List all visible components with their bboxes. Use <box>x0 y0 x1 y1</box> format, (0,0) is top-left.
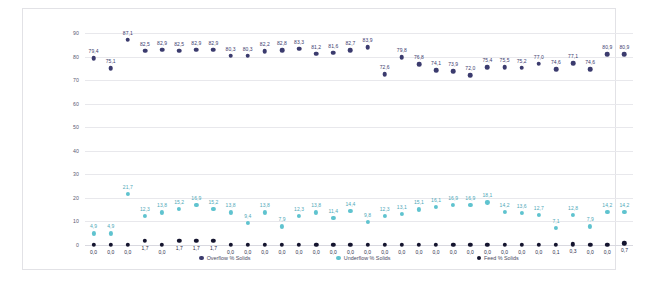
data-point[interactable] <box>468 203 472 207</box>
data-point[interactable] <box>263 49 268 54</box>
legend-item[interactable]: Underflow % Solids <box>336 255 390 261</box>
data-point[interactable] <box>91 56 96 61</box>
data-point[interactable] <box>605 243 609 247</box>
data-point[interactable] <box>588 243 592 247</box>
data-point[interactable] <box>194 239 198 243</box>
data-point[interactable] <box>126 192 130 196</box>
data-point[interactable] <box>468 73 473 78</box>
data-point-label: 83,3 <box>294 39 304 45</box>
data-point[interactable] <box>519 66 524 71</box>
legend-item[interactable]: Feed % Solids <box>477 255 519 261</box>
data-point[interactable] <box>228 243 232 247</box>
data-point[interactable] <box>571 61 576 66</box>
data-point[interactable] <box>571 213 575 217</box>
data-point[interactable] <box>400 212 404 216</box>
data-point[interactable] <box>331 50 336 55</box>
data-point[interactable] <box>434 205 438 209</box>
data-point[interactable] <box>211 47 216 52</box>
data-point[interactable] <box>588 224 592 228</box>
data-point[interactable] <box>451 69 456 74</box>
data-point[interactable] <box>246 221 250 225</box>
data-point[interactable] <box>519 243 523 247</box>
data-point[interactable] <box>228 54 233 59</box>
data-point[interactable] <box>108 66 113 71</box>
data-point[interactable] <box>297 214 301 218</box>
data-point[interactable] <box>314 210 318 214</box>
data-point[interactable] <box>588 67 593 72</box>
data-point[interactable] <box>400 55 405 60</box>
data-point[interactable] <box>109 231 113 235</box>
data-point[interactable] <box>177 207 181 211</box>
data-point[interactable] <box>211 207 215 211</box>
data-point[interactable] <box>605 52 610 57</box>
data-point[interactable] <box>160 47 165 52</box>
data-point[interactable] <box>382 243 386 247</box>
data-point[interactable] <box>434 243 438 247</box>
data-point[interactable] <box>245 243 249 247</box>
data-point[interactable] <box>417 62 422 67</box>
data-point[interactable] <box>348 243 352 247</box>
data-point[interactable] <box>537 243 541 247</box>
data-point[interactable] <box>263 243 267 247</box>
data-point[interactable] <box>468 243 472 247</box>
data-point[interactable] <box>365 45 370 50</box>
data-point[interactable] <box>177 239 181 243</box>
data-point[interactable] <box>417 243 421 247</box>
data-point[interactable] <box>245 54 250 59</box>
data-point[interactable] <box>502 243 506 247</box>
data-point[interactable] <box>383 214 387 218</box>
data-point[interactable] <box>605 209 609 213</box>
data-point[interactable] <box>485 243 489 247</box>
data-point[interactable] <box>280 243 284 247</box>
data-point[interactable] <box>622 52 627 57</box>
data-point-label: 12,3 <box>140 206 150 212</box>
data-point[interactable] <box>263 210 267 214</box>
data-point[interactable] <box>520 211 524 215</box>
data-point[interactable] <box>314 51 319 56</box>
data-point[interactable] <box>502 65 507 70</box>
data-point[interactable] <box>297 243 301 247</box>
data-point[interactable] <box>280 48 285 53</box>
data-point[interactable] <box>485 200 489 204</box>
data-point[interactable] <box>485 65 490 70</box>
data-point[interactable] <box>451 203 455 207</box>
data-point[interactable] <box>297 46 302 51</box>
data-point[interactable] <box>143 214 147 218</box>
data-point[interactable] <box>143 239 147 243</box>
data-point[interactable] <box>365 220 369 224</box>
data-point[interactable] <box>554 243 558 247</box>
data-point[interactable] <box>126 243 130 247</box>
data-point[interactable] <box>160 243 164 247</box>
data-point[interactable] <box>331 216 335 220</box>
data-point[interactable] <box>228 210 232 214</box>
data-point[interactable] <box>382 72 387 77</box>
data-point[interactable] <box>143 48 148 53</box>
data-point[interactable] <box>126 38 131 43</box>
legend-item[interactable]: Overflow % Solids <box>199 255 250 261</box>
data-point[interactable] <box>280 224 284 228</box>
data-point[interactable] <box>194 47 199 52</box>
data-point[interactable] <box>331 243 335 247</box>
data-point[interactable] <box>365 243 369 247</box>
data-point[interactable] <box>91 231 95 235</box>
data-point[interactable] <box>177 48 182 53</box>
data-point[interactable] <box>502 209 506 213</box>
data-point[interactable] <box>537 61 542 66</box>
data-point[interactable] <box>400 243 404 247</box>
data-point[interactable] <box>160 210 164 214</box>
data-point[interactable] <box>434 68 439 73</box>
data-point[interactable] <box>554 226 558 230</box>
data-point[interactable] <box>348 48 353 53</box>
data-point[interactable] <box>622 209 626 213</box>
data-point-label: 12,8 <box>568 205 578 211</box>
data-point[interactable] <box>91 243 95 247</box>
data-point[interactable] <box>537 213 541 217</box>
data-point[interactable] <box>108 243 112 247</box>
data-point[interactable] <box>451 243 455 247</box>
data-point[interactable] <box>211 239 215 243</box>
data-point[interactable] <box>348 209 352 213</box>
data-point[interactable] <box>554 67 559 72</box>
data-point[interactable] <box>314 243 318 247</box>
data-point[interactable] <box>194 203 198 207</box>
data-point[interactable] <box>417 207 421 211</box>
